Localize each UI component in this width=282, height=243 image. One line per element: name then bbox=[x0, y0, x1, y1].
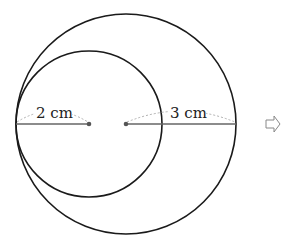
inner-radius-label: 2 cm bbox=[36, 104, 73, 122]
right-arrow-icon bbox=[266, 116, 280, 132]
outer-radius-label: 3 cm bbox=[170, 104, 207, 122]
outer-center-dot bbox=[124, 122, 129, 127]
two-circles-diagram: 2 cm 3 cm bbox=[0, 0, 282, 243]
inner-center-dot bbox=[87, 122, 92, 127]
